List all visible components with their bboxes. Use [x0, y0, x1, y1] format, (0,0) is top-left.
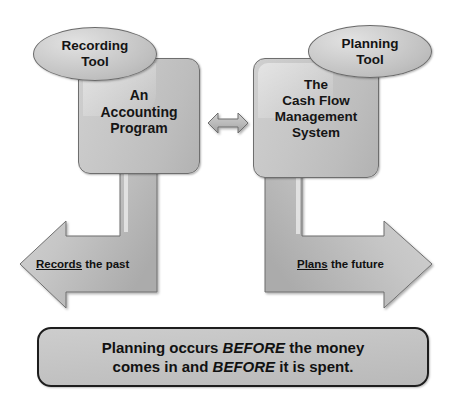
- right-arrow-label: Plans the future: [297, 258, 384, 270]
- caption-line1: Planning occurs BEFORE the money: [102, 339, 365, 356]
- elbow-arrow-right: [265, 170, 432, 308]
- right-arrow-label-underlined: Plans: [297, 258, 328, 270]
- left-ellipse-recording-tool: Recording Tool: [33, 27, 157, 81]
- caption-line1-b: the money: [285, 339, 364, 356]
- caption-line2-emphasis: BEFORE: [213, 358, 276, 375]
- left-arrow-label: Records the past: [36, 258, 129, 270]
- left-box-label: An Accounting Program: [79, 87, 199, 137]
- elbow-arrow-left: [20, 166, 157, 308]
- caption-line2-a: comes in and: [113, 358, 213, 375]
- left-arrow-label-rest: the past: [82, 258, 129, 270]
- diagram-canvas: An Accounting Program The Cash Flow Mana…: [0, 0, 459, 403]
- caption-line2: comes in and BEFORE it is spent.: [113, 358, 354, 375]
- caption-line1-emphasis: BEFORE: [223, 339, 286, 356]
- right-ellipse-planning-tool: Planning Tool: [308, 25, 432, 78]
- caption-line2-b: it is spent.: [275, 358, 353, 375]
- left-ellipse-label: Recording Tool: [62, 38, 129, 69]
- caption-text: Planning occurs BEFORE the money comes i…: [94, 338, 373, 376]
- bidirectional-arrow-center: [208, 113, 248, 133]
- elbow-arrow-left-highlight: [124, 170, 128, 232]
- right-arrow-label-rest: the future: [328, 258, 384, 270]
- elbow-arrow-right-highlight: [296, 174, 300, 234]
- left-arrow-label-underlined: Records: [36, 258, 82, 270]
- right-box-label: The Cash Flow Management System: [254, 77, 378, 141]
- right-ellipse-label: Planning Tool: [342, 36, 399, 67]
- caption-line1-a: Planning occurs: [102, 339, 223, 356]
- caption-box: Planning occurs BEFORE the money comes i…: [37, 327, 429, 387]
